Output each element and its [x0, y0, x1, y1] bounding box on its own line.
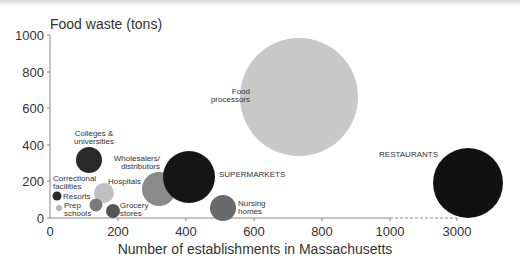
bubble-chart: 1000 800 600 400 200 0 0 200 400 600 800… — [0, 0, 520, 266]
label-restaurants: RESTAURANTS — [379, 150, 438, 159]
y-axis-title: Food waste (tons) — [50, 16, 162, 32]
bubble-restaurants — [433, 148, 503, 218]
bubble-supermarkets — [163, 151, 215, 203]
label-correctional-2: facilities — [53, 182, 81, 191]
label-hospitals: Hospitals — [108, 177, 141, 186]
y-tick-1000: 1000 — [15, 28, 44, 43]
label-wholesalers-2: distributors — [121, 162, 160, 171]
label-grocery-2: stores — [120, 209, 142, 218]
x-tick-0: 0 — [46, 224, 53, 239]
y-ticks: 1000 800 600 400 200 0 — [15, 28, 50, 226]
bubble-colleges — [76, 147, 102, 173]
label-prep-2: schools — [64, 209, 91, 218]
x-tick-400: 400 — [175, 224, 197, 239]
x-tick-600: 600 — [243, 224, 265, 239]
x-axis-title: Number of establishments in Massachusett… — [118, 241, 393, 257]
bubble-grocery-stores — [106, 204, 120, 218]
bubble-unlabeled — [90, 199, 103, 212]
y-tick-400: 400 — [22, 138, 44, 153]
y-tick-200: 200 — [22, 174, 44, 189]
x-tick-800: 800 — [311, 224, 333, 239]
x-tick-200: 200 — [107, 224, 129, 239]
y-tick-800: 800 — [22, 65, 44, 80]
x-ticks: 0 200 400 600 800 1000 3000 — [46, 218, 471, 239]
label-resorts: Resorts — [63, 192, 91, 201]
label-supermarkets: SUPERMARKETS — [219, 170, 285, 179]
bubble-food-processors — [240, 38, 358, 156]
bubble-nursing-homes — [210, 195, 236, 221]
label-colleges-2: universities — [74, 137, 114, 146]
x-tick-1000: 1000 — [376, 224, 405, 239]
bubble-prep-schools — [56, 205, 62, 211]
y-tick-600: 600 — [22, 101, 44, 116]
y-tick-0: 0 — [37, 211, 44, 226]
label-food-2: processors — [211, 95, 250, 104]
label-nursing-2: homes — [238, 207, 262, 216]
bubble-resorts — [53, 192, 62, 201]
x-tick-3000: 3000 — [443, 224, 472, 239]
